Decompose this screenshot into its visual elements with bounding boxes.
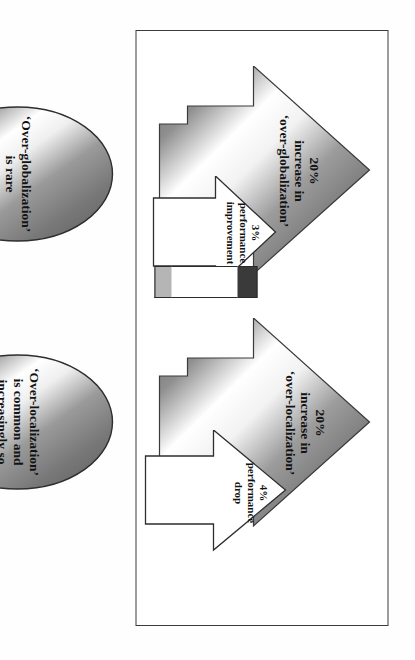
ellipse-shape-globalization [0,104,115,244]
bar-segment-grey [154,266,171,298]
arrow-group-localization: 20% increase in ‘over-localization’ 4% p… [151,318,373,568]
diagram-canvas: 20% increase in ‘over-globalization’ 3% … [0,0,415,660]
scanned-page: 20% increase in ‘over-globalization’ 3% … [0,0,415,660]
bar-segment-dark [235,266,257,298]
small-arrow-localization [141,430,287,560]
arrow-group-globalization: 20% increase in ‘over-globalization’ 3% … [151,66,373,316]
callout-ellipse-localization: ‘Over-localization’ is common and increa… [0,352,115,492]
callout-ellipse-globalization: ‘Over-globalization’ is rare [0,104,115,244]
ellipse-shape-localization [0,352,115,492]
